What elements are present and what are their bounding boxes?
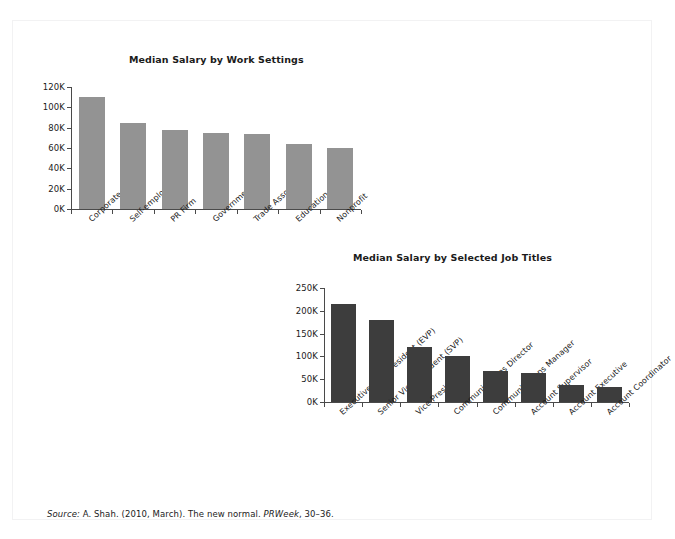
source-journal: PRWeek	[264, 509, 299, 519]
chart1-title: Median Salary by Work Settings	[129, 54, 304, 65]
chart1-y-tick	[67, 107, 72, 108]
x-tick	[154, 210, 155, 214]
x-tick	[553, 403, 554, 407]
bar	[120, 123, 146, 209]
x-tick	[324, 403, 325, 407]
chart2-y-tick-label: 200K	[296, 306, 318, 316]
chart2-y-tick	[320, 334, 325, 335]
bar	[286, 144, 312, 209]
bar	[79, 97, 105, 209]
bar	[445, 356, 470, 402]
chart2-title: Median Salary by Selected Job Titles	[353, 252, 552, 263]
chart1-y-tick-label: 40K	[48, 163, 65, 173]
chart1-x-axis	[71, 209, 361, 210]
x-tick	[629, 403, 630, 407]
x-axis-label: Account Coordinator	[605, 354, 673, 417]
chart2-y-tick-label: 50K	[301, 374, 318, 384]
bar	[327, 148, 353, 209]
chart2-plot-area: 250K200K150K100K50K0KExecutive Vice Pres…	[324, 288, 629, 402]
x-tick	[195, 210, 196, 214]
bar	[244, 134, 270, 209]
chart2-y-tick-label: 150K	[296, 329, 318, 339]
x-tick	[320, 210, 321, 214]
chart1-y-tick-label: 20K	[48, 184, 65, 194]
chart1-y-tick	[67, 189, 72, 190]
x-tick	[515, 403, 516, 407]
bar	[162, 130, 188, 209]
chart1-y-tick-label: 60K	[48, 143, 65, 153]
chart2-y-tick-label: 100K	[296, 351, 318, 361]
chart-median-salary-by-selected-job-titles: Median Salary by Selected Job Titles 250…	[253, 243, 675, 503]
chart1-y-tick-label: 100K	[43, 102, 65, 112]
chart1-y-tick-label: 80K	[48, 123, 65, 133]
chart1-y-tick	[67, 87, 72, 88]
chart2-y-tick	[320, 379, 325, 380]
x-tick	[237, 210, 238, 214]
chart1-y-tick	[67, 148, 72, 149]
x-tick	[591, 403, 592, 407]
source-label: Source:	[47, 509, 80, 519]
bar	[369, 320, 394, 402]
chart2-y-axis	[324, 288, 325, 403]
source-text-before: A. Shah. (2010, March). The new normal.	[80, 509, 264, 519]
bar	[331, 304, 356, 402]
x-tick	[477, 403, 478, 407]
x-tick	[361, 210, 362, 214]
chart2-y-tick-label: 250K	[296, 283, 318, 293]
x-tick	[112, 210, 113, 214]
source-text-after: , 30–36.	[299, 509, 334, 519]
x-tick	[71, 210, 72, 214]
chart2-y-tick-label: 0K	[307, 397, 318, 407]
chart2-y-tick	[320, 356, 325, 357]
chart1-y-tick	[67, 128, 72, 129]
x-tick	[400, 403, 401, 407]
chart1-plot-area: 120K100K80K60K40K20K0KCorporateSelf-empl…	[71, 87, 361, 209]
chart2-y-tick	[320, 311, 325, 312]
chart1-y-tick-label: 120K	[43, 82, 65, 92]
chart-median-salary-by-work-settings: Median Salary by Work Settings 120K100K8…	[13, 21, 413, 271]
bar	[407, 347, 432, 402]
bar	[203, 133, 229, 209]
chart1-y-tick-label: 0K	[54, 204, 65, 214]
x-tick	[278, 210, 279, 214]
x-tick	[362, 403, 363, 407]
source-note: Source: A. Shah. (2010, March). The new …	[47, 509, 334, 519]
page-frame: Median Salary by Work Settings 120K100K8…	[12, 20, 652, 520]
chart1-y-tick	[67, 168, 72, 169]
x-tick	[438, 403, 439, 407]
chart2-y-tick	[320, 288, 325, 289]
